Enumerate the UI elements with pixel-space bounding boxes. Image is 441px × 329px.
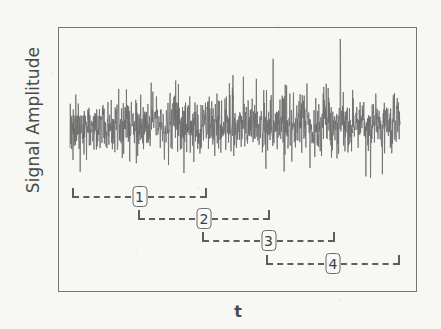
bracket-dashed-line-left xyxy=(139,218,195,220)
window-bracket-3[interactable]: 3 xyxy=(202,230,335,252)
bracket-dashed-line-left xyxy=(203,240,260,242)
bracket-dashed-line-left xyxy=(73,196,131,198)
segment-number-box[interactable]: 3 xyxy=(261,230,276,251)
segment-number-box[interactable]: 1 xyxy=(132,186,147,207)
window-bracket-1[interactable]: 1 xyxy=(72,186,207,208)
signal-windowing-figure: Signal Amplitude t 1234 xyxy=(0,0,441,329)
bracket-dashed-line-right xyxy=(148,196,207,198)
y-axis-label: Signal Amplitude xyxy=(23,47,43,193)
bracket-end-tick xyxy=(205,188,207,198)
bracket-dashed-line-left xyxy=(267,263,324,265)
window-bracket-2[interactable]: 2 xyxy=(138,208,270,230)
window-bracket-4[interactable]: 4 xyxy=(266,253,400,275)
x-axis-label: t xyxy=(234,302,242,321)
bracket-dashed-line-right xyxy=(341,263,399,265)
bracket-end-tick xyxy=(398,255,400,265)
bracket-end-tick xyxy=(268,210,270,220)
bracket-dashed-line-right xyxy=(277,240,335,242)
bracket-end-tick xyxy=(333,232,335,242)
segment-number-box[interactable]: 4 xyxy=(326,253,341,274)
segment-number-box[interactable]: 2 xyxy=(197,208,212,229)
bracket-dashed-line-right xyxy=(212,218,269,220)
